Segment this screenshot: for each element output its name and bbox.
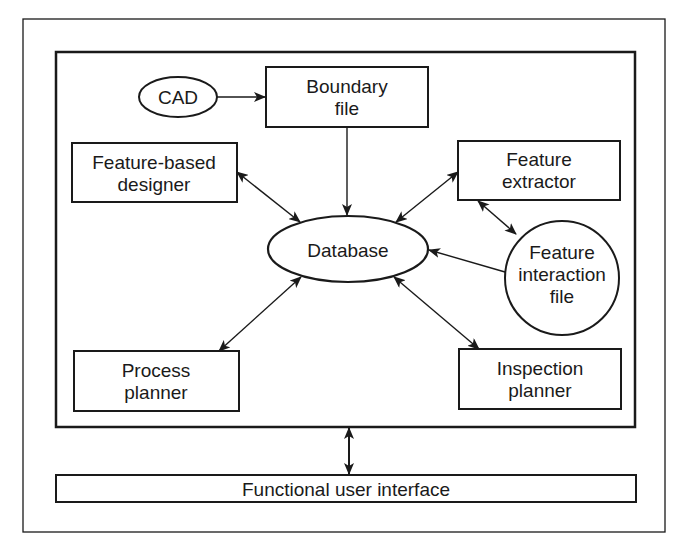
feature-extractor-label-line2: extractor [502,171,577,192]
process-planner-label-line1: Process [122,360,191,381]
functional-user-interface-label: Functional user interface [242,479,450,500]
inspection-planner-label-line2: planner [508,380,572,401]
edge-feature-based-designer-database [237,172,300,222]
node-feature-extractor: Feature extractor [458,141,620,200]
node-process-planner: Process planner [74,351,239,411]
cad-label: CAD [158,87,198,108]
feature-interaction-file-label-line3: file [550,286,574,307]
node-boundary-file: Boundary file [266,67,428,127]
node-inspection-planner: Inspection planner [459,349,621,409]
feature-interaction-file-label-line2: interaction [518,264,606,285]
node-feature-interaction-file: Feature interaction file [505,221,619,335]
inspection-planner-label-line1: Inspection [497,358,584,379]
edge-feature-extractor-feature-interaction-file [478,201,516,234]
database-label: Database [307,240,388,261]
feature-based-designer-label-line1: Feature-based [92,152,216,173]
node-database: Database [268,216,428,282]
node-cad: CAD [139,77,217,117]
node-feature-based-designer: Feature-based designer [72,143,237,202]
feature-extractor-label-line1: Feature [506,149,571,170]
edge-feature-extractor-database [396,172,458,222]
boundary-file-label-line2: file [335,98,359,119]
feature-interaction-file-label-line1: Feature [529,242,594,263]
edge-feature-interaction-file-to-database [429,250,505,272]
boundary-file-label-line1: Boundary [306,76,388,97]
edge-process-planner-database [219,277,301,351]
node-functional-user-interface: Functional user interface [56,475,636,502]
process-planner-label-line2: planner [124,382,188,403]
diagram-canvas: CAD Boundary file Feature-based designer… [0,0,678,557]
feature-based-designer-label-line2: designer [118,174,192,195]
edge-inspection-planner-database [394,277,479,349]
